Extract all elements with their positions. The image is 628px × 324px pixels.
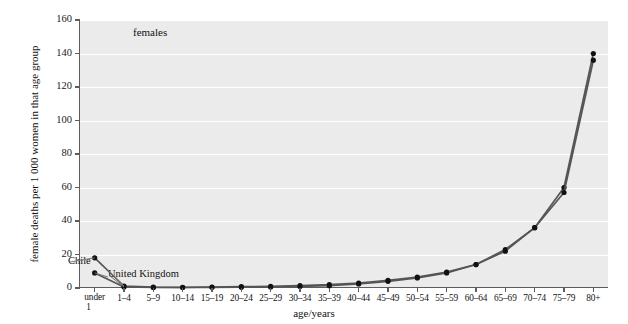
x-tick-mark (123, 288, 124, 292)
gridline (80, 20, 608, 21)
x-tick-label: under1 (84, 292, 105, 312)
y-tick-mark (75, 187, 79, 188)
x-tick-label: 55–59 (435, 293, 458, 303)
x-tick-label: 80+ (586, 293, 600, 303)
x-tick-label: 60–64 (465, 293, 488, 303)
gridline (80, 87, 608, 88)
x-tick-label: 20–24 (230, 293, 253, 303)
x-tick-mark (446, 288, 447, 292)
x-tick-mark (563, 288, 564, 292)
x-tick-mark (475, 288, 476, 292)
y-tick-label: 120 (38, 80, 72, 91)
x-tick-mark (299, 288, 300, 292)
y-tick-label: 40 (38, 214, 72, 225)
x-tick-label: 5–9 (147, 293, 161, 303)
y-tick-label: 160 (38, 13, 72, 24)
y-tick-mark (75, 19, 79, 20)
y-tick-mark (75, 153, 79, 154)
y-tick-label: 20 (38, 248, 72, 259)
gridline (80, 154, 608, 155)
x-tick-label: 50–54 (406, 293, 429, 303)
annotation-united-kingdom: United Kingdom (108, 268, 179, 279)
gridline (80, 121, 608, 122)
y-tick-label: 140 (38, 47, 72, 58)
x-tick-mark (270, 288, 271, 292)
y-tick-label: 80 (38, 147, 72, 158)
y-tick-mark (75, 254, 79, 255)
x-tick-mark (358, 288, 359, 292)
plot-area (80, 20, 608, 288)
x-tick-mark (211, 288, 212, 292)
chart-figure: female deaths per 1 000 women in that ag… (0, 0, 628, 324)
y-tick-mark (75, 53, 79, 54)
x-tick-mark (417, 288, 418, 292)
x-axis-line (79, 287, 608, 288)
x-tick-label: 1–4 (117, 293, 131, 303)
x-tick-mark (593, 288, 594, 292)
x-tick-mark (153, 288, 154, 292)
y-tick-mark (75, 120, 79, 121)
x-tick-mark (387, 288, 388, 292)
gridline (80, 188, 608, 189)
x-tick-label: 70–74 (523, 293, 546, 303)
gridline (80, 255, 608, 256)
chart-title: females (133, 26, 167, 38)
y-tick-label: 100 (38, 114, 72, 125)
x-tick-mark (182, 288, 183, 292)
x-tick-mark (505, 288, 506, 292)
x-tick-label: 15–19 (201, 293, 224, 303)
y-tick-mark (75, 220, 79, 221)
x-tick-label: 30–34 (289, 293, 312, 303)
y-tick-label: 0 (38, 281, 72, 292)
x-tick-label: 40–44 (347, 293, 370, 303)
y-tick-label: 60 (38, 181, 72, 192)
gridline (80, 221, 608, 222)
x-tick-mark (534, 288, 535, 292)
y-tick-mark (75, 287, 79, 288)
x-tick-label: 65–69 (494, 293, 517, 303)
y-axis-line (79, 19, 80, 289)
x-tick-label: 45–49 (377, 293, 400, 303)
x-tick-label: 10–14 (171, 293, 194, 303)
gridline (80, 54, 608, 55)
x-tick-mark (241, 288, 242, 292)
x-tick-mark (329, 288, 330, 292)
x-tick-label: 35–39 (318, 293, 341, 303)
x-tick-label: 25–29 (259, 293, 282, 303)
x-tick-label: 75–79 (553, 293, 576, 303)
y-tick-mark (75, 86, 79, 87)
